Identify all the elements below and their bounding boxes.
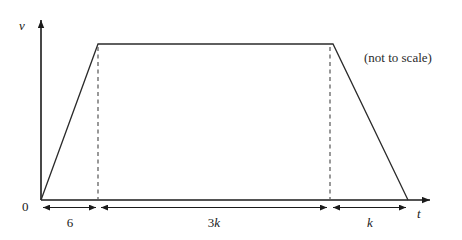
segment-label-deceleration-symbol: k: [367, 215, 373, 230]
not-to-scale-note: (not to scale): [364, 50, 432, 66]
y-axis-label: v: [19, 18, 25, 34]
segment-label-constant: 3k: [194, 215, 234, 231]
graph-canvas: [0, 0, 462, 240]
velocity-time-graph-figure: v t 0 6 3k k (not to scale): [0, 0, 462, 240]
velocity-curve: [41, 44, 408, 200]
segment-label-deceleration: k: [350, 215, 390, 231]
segment-label-acceleration: 6: [50, 215, 90, 231]
segment-label-constant-symbol: k: [214, 215, 220, 230]
segment-label-acceleration-value: 6: [67, 215, 74, 230]
x-axis-label: t: [417, 206, 421, 222]
origin-label: 0: [22, 199, 29, 215]
